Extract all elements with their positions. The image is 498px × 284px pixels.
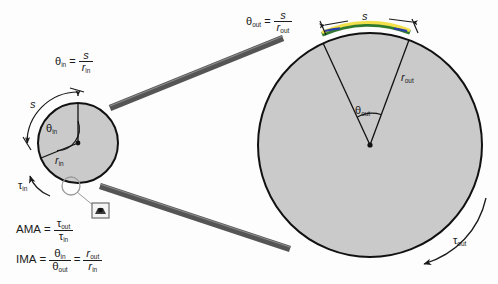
equation-ima-fraction-r: routrin [83,248,102,272]
equation-ima-lhs: IMA [16,254,36,266]
equation-ima-fraction-theta: θinθout [49,248,70,272]
input-arc-label: s [30,99,36,110]
input-radius-label: rin [55,155,64,166]
equation-ama-lhs: AMA [16,224,41,236]
output-torque-label: τout [453,235,466,246]
equation-ima: IMA=θinθout=routrin [16,248,102,272]
equation-theta-in-lhs: θin [55,56,66,67]
belt-lower [100,184,290,249]
input-torque-label: τin [18,180,27,191]
equation-ama: AMA=τoutτin [16,218,73,242]
equation-theta-out-lhs: θout [246,16,261,27]
equation-theta-in: θin=srin [55,50,93,73]
input-torque-arrow [30,176,50,196]
equation-theta-in-fraction: srin [79,50,94,73]
equation-ama-fraction: τoutτin [54,218,74,242]
equation-theta-out: θout=srout [246,10,292,33]
belt-upper [110,36,283,108]
belt-drive-illustration [0,0,498,284]
equation-theta-out-fraction: srout [274,10,293,33]
diagram-canvas: θin=srin θout=srout AMA=τoutτin IMA=θinθ… [0,0,498,284]
output-wheel [258,33,482,257]
output-radius-label: rout [401,72,414,83]
input-angle-label: θin [46,123,57,134]
output-angle-label: θout [355,105,370,116]
input-wheel [38,103,118,183]
output-arc-label: s [362,11,368,22]
